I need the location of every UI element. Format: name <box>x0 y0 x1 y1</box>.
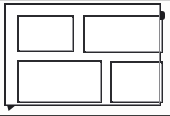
panel-bottom-right <box>110 61 163 103</box>
outer-frame <box>4 3 161 106</box>
panel-bottom-left-label <box>19 62 20 63</box>
panel-top-left <box>17 15 74 52</box>
tab-bottom-left-marker <box>7 105 16 111</box>
figure-canvas <box>0 0 170 116</box>
panel-top-right-label <box>85 17 86 18</box>
tab-right-edge-marker <box>160 11 165 20</box>
scan-edge-bottom <box>0 115 170 116</box>
panel-bottom-left <box>17 60 102 103</box>
panel-top-right <box>83 15 163 53</box>
panel-bottom-right-label <box>112 63 113 64</box>
scan-edge-top <box>0 0 170 1</box>
panel-top-left-label <box>19 17 20 18</box>
